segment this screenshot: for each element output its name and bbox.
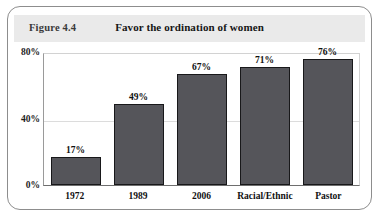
bar-slot: 17% bbox=[44, 54, 107, 185]
x-axis-category-label: 1989 bbox=[106, 191, 169, 201]
y-axis-tick-label: 40% bbox=[6, 114, 40, 124]
plot-area: 17%49%67%71%76% bbox=[43, 53, 360, 186]
bar-slot: 71% bbox=[233, 54, 296, 185]
x-axis-category-label: 1972 bbox=[43, 191, 106, 201]
y-axis: 0%40%80% bbox=[0, 53, 40, 186]
x-axis-category-label: Pastor bbox=[297, 191, 360, 201]
bar-slot: 76% bbox=[296, 54, 359, 185]
bar bbox=[177, 74, 227, 185]
x-axis-category-label: 2006 bbox=[170, 191, 233, 201]
bar bbox=[240, 67, 290, 185]
bar-value-label: 17% bbox=[46, 145, 106, 155]
bar-value-label: 76% bbox=[298, 47, 358, 57]
figure-container: Figure 4.4 Favor the ordination of women… bbox=[0, 0, 379, 217]
bar bbox=[114, 104, 164, 185]
y-axis-tick-label: 0% bbox=[6, 180, 40, 190]
bar-slot: 49% bbox=[107, 54, 170, 185]
y-axis-tick-label: 80% bbox=[6, 47, 40, 57]
bar-value-label: 49% bbox=[109, 92, 169, 102]
x-axis-category-label: Racial/Ethnic bbox=[233, 191, 296, 201]
bar-value-label: 71% bbox=[235, 55, 295, 65]
bar bbox=[51, 157, 101, 185]
bar-value-label: 67% bbox=[172, 62, 232, 72]
bar-series: 17%49%67%71%76% bbox=[44, 54, 359, 185]
bar bbox=[303, 59, 353, 185]
bar-slot: 67% bbox=[170, 54, 233, 185]
x-axis-labels: 197219892006Racial/EthnicPastor bbox=[43, 188, 360, 204]
chart-title: Favor the ordination of women bbox=[0, 21, 379, 33]
